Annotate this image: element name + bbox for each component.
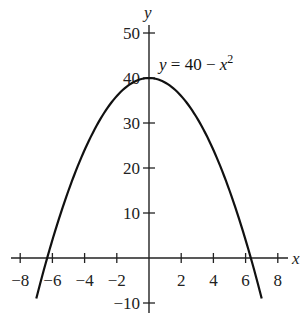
equation-exponent: 2 xyxy=(227,52,233,66)
y-tick-label: 50 xyxy=(123,24,140,43)
equation-label: y = 40 − x2 xyxy=(157,52,233,74)
parabola-chart: −8−6−4−22468−101020304050 x y y = 40 − x… xyxy=(0,0,303,321)
x-tick-label: 4 xyxy=(209,271,218,290)
y-tick-label: 20 xyxy=(123,159,140,178)
x-tick-label: 6 xyxy=(241,271,250,290)
x-axis-label: x xyxy=(291,249,300,268)
y-tick-label: 30 xyxy=(123,114,140,133)
x-tick-label: −8 xyxy=(11,271,29,290)
x-tick-label: −6 xyxy=(43,271,61,290)
axes xyxy=(11,25,288,313)
x-tick-label: 8 xyxy=(274,271,283,290)
x-tick-label: −4 xyxy=(76,271,95,290)
equation-y: y xyxy=(157,55,167,74)
x-tick-label: −2 xyxy=(108,271,126,290)
y-tick-label: 40 xyxy=(123,69,140,88)
y-tick-label: −10 xyxy=(113,294,140,313)
equation-middle: = 40 − xyxy=(167,55,220,74)
y-tick-label: 10 xyxy=(123,204,140,223)
x-tick-label: 2 xyxy=(177,271,186,290)
y-axis-label: y xyxy=(142,3,152,22)
